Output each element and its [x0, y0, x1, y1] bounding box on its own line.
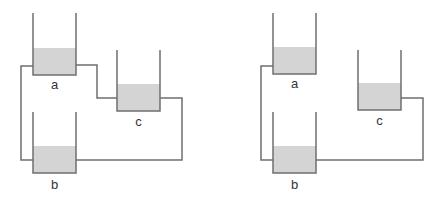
container-a: a — [273, 13, 316, 91]
container-a: a — [33, 13, 76, 92]
container-b: b — [33, 112, 76, 192]
connected-vessels-figure: a c b a c — [0, 0, 441, 198]
left-diagram: a c b — [21, 13, 182, 192]
pipe-a-to-b — [21, 66, 33, 160]
liquid-c — [358, 83, 401, 110]
label-b: b — [291, 177, 298, 192]
container-c: c — [117, 50, 160, 129]
liquid-b — [273, 146, 316, 173]
container-c: c — [358, 50, 401, 128]
liquid-a — [33, 48, 76, 75]
label-a: a — [291, 76, 299, 91]
pipe-a-to-c — [76, 65, 117, 98]
right-diagram: a c b — [261, 13, 423, 192]
label-c: c — [376, 113, 383, 128]
container-b: b — [273, 112, 316, 192]
label-a: a — [51, 77, 59, 92]
liquid-a — [273, 47, 316, 74]
liquid-b — [33, 146, 76, 173]
label-b: b — [51, 177, 58, 192]
label-c: c — [135, 114, 142, 129]
liquid-c — [117, 84, 160, 111]
pipe-a-to-b — [261, 66, 273, 160]
